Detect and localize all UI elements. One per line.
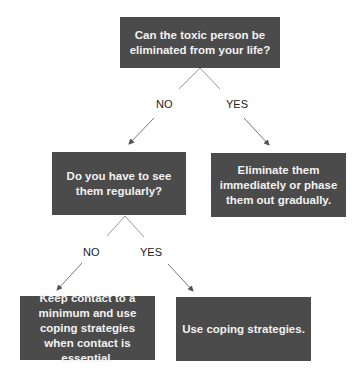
- answer-eliminate: Eliminate them immediately or phase them…: [211, 153, 346, 217]
- edge-label-no: NO: [83, 246, 100, 258]
- q1-no-arrow: [129, 118, 154, 144]
- answer-eliminate-text: Eliminate them immediately or phase them…: [217, 163, 340, 208]
- answer-coping: Use coping strategies.: [176, 297, 311, 361]
- edge-label-yes: YES: [140, 246, 162, 258]
- question-eliminate-text: Can the toxic person be eliminated from …: [126, 28, 274, 58]
- question-eliminate: Can the toxic person be eliminated from …: [120, 17, 280, 68]
- edge-label-no: NO: [156, 98, 173, 110]
- q1-yes-arrow: [244, 118, 269, 145]
- answer-minimum-contact: Keep contact to a minimum and use coping…: [20, 296, 155, 360]
- question-see-regularly-text: Do you have to see them regularly?: [58, 169, 180, 199]
- answer-minimum-contact-text: Keep contact to a minimum and use coping…: [24, 291, 151, 366]
- question-see-regularly: Do you have to see them regularly?: [52, 152, 186, 215]
- q2-yes-arrow: [168, 264, 193, 291]
- edge-label-yes: YES: [226, 98, 248, 110]
- q2-split-left: [107, 216, 125, 236]
- answer-coping-text: Use coping strategies.: [182, 322, 305, 337]
- q2-split-right: [125, 216, 144, 237]
- q2-no-arrow: [57, 263, 82, 290]
- q1-split-left: [179, 68, 200, 89]
- q1-split-right: [200, 68, 220, 89]
